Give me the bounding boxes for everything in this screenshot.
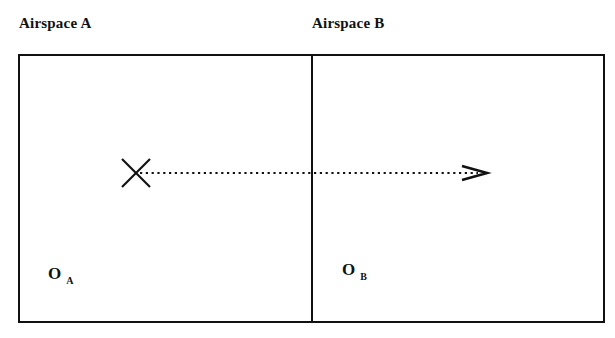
origin-b-subscript: B [360,271,367,282]
origin-b-letter: O [342,260,355,279]
origin-b-label: OB [342,260,367,280]
origin-a-letter: O [48,264,61,283]
origin-a-subscript: A [66,275,73,286]
airspace-diagram [0,0,615,338]
origin-a-label: OA [48,264,73,284]
